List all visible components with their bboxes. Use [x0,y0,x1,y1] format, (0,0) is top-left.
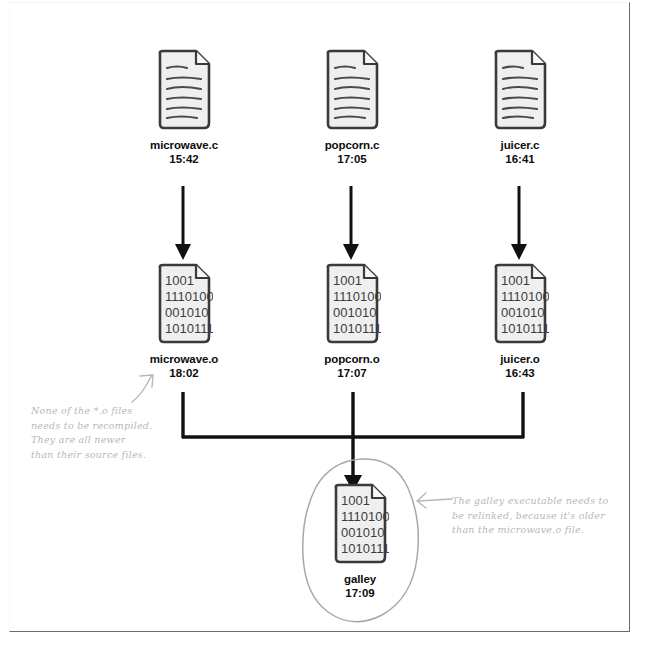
binary-line-3: 1010111 [341,541,389,556]
binary-line-1: 1110100 [333,289,381,304]
node-timestamp: 17:07 [292,366,412,380]
node-timestamp: 16:43 [460,366,580,380]
compile-arrow-popcorn [340,186,362,262]
binary-line-2: 001010 [341,525,384,540]
object-files-note: None of the *.o files needs to be recomp… [31,404,181,462]
compile-arrow-juicer [508,186,530,262]
node-label: microwave.c [124,138,244,152]
diagram-page: microwave.c 15:42 popcorn.c 17:05 [0,0,649,658]
binary-line-2: 001010 [165,305,208,320]
object-files-note-pointer-icon [128,372,162,406]
node-juicer-o: 1001 1110100 001010 1010111 juicer.o 16:… [460,262,580,380]
galley-note: The galley executable needs to be relink… [452,494,642,538]
node-juicer-c: juicer.c 16:41 [460,48,580,166]
binary-line-0: 1001 [333,273,362,288]
annotation-line: than their source files. [31,448,181,463]
binary-line-3: 1010111 [501,321,549,336]
binary-document-icon: 1001 1110100 001010 1010111 [323,262,381,346]
node-label: juicer.o [460,352,580,366]
node-timestamp: 15:42 [124,152,244,166]
binary-line-0: 1001 [165,273,194,288]
annotation-line: None of the *.o files [31,404,181,419]
annotation-line: They are all newer [31,433,181,448]
compile-arrow-microwave [172,186,194,262]
annotation-line: needs to be recompiled. [31,419,181,434]
node-label: galley [300,572,420,586]
binary-line-2: 001010 [501,305,544,320]
binary-line-1: 1110100 [341,509,389,524]
text-document-icon [323,48,381,132]
node-label: popcorn.c [292,138,412,152]
binary-line-2: 001010 [333,305,376,320]
binary-line-3: 1010111 [333,321,381,336]
annotation-line: than the microwave.o file. [452,523,642,538]
node-label: popcorn.o [292,352,412,366]
binary-line-3: 1010111 [165,321,213,336]
galley-note-pointer-icon [410,490,454,512]
node-label: microwave.o [124,352,244,366]
node-label: juicer.c [460,138,580,152]
annotation-line: be relinked, because it's older [452,509,642,524]
node-timestamp: 17:09 [300,586,420,600]
binary-line-0: 1001 [341,493,370,508]
node-popcorn-c: popcorn.c 17:05 [292,48,412,166]
text-document-icon [155,48,213,132]
node-microwave-c: microwave.c 15:42 [124,48,244,166]
node-timestamp: 17:05 [292,152,412,166]
binary-line-1: 1110100 [165,289,213,304]
binary-document-icon: 1001 1110100 001010 1010111 [491,262,549,346]
binary-line-0: 1001 [501,273,530,288]
binary-line-1: 1110100 [501,289,549,304]
text-document-icon [491,48,549,132]
node-timestamp: 16:41 [460,152,580,166]
node-galley: 1001 1110100 001010 1010111 galley 17:09 [300,482,420,600]
node-popcorn-o: 1001 1110100 001010 1010111 popcorn.o 17… [292,262,412,380]
node-microwave-o: 1001 1110100 001010 1010111 microwave.o … [124,262,244,380]
binary-document-icon: 1001 1110100 001010 1010111 [331,482,389,566]
binary-document-icon: 1001 1110100 001010 1010111 [155,262,213,346]
annotation-line: The galley executable needs to [452,494,642,509]
